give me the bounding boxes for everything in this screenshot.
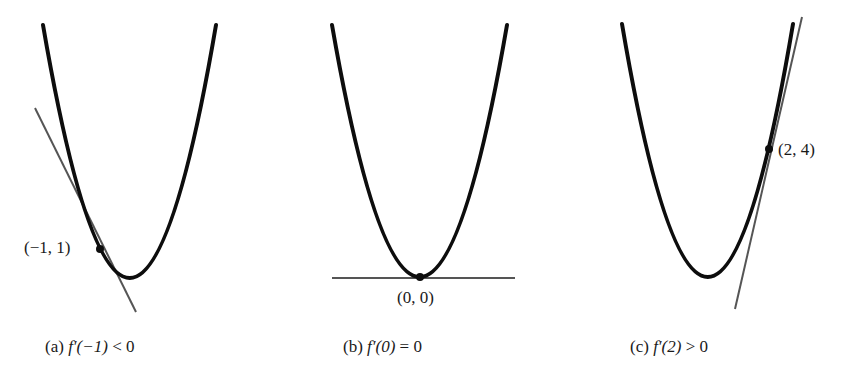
caption-b-func: f′(0) <box>367 337 395 356</box>
caption-b-rel: = 0 <box>400 337 422 356</box>
caption-a-func: f′(−1) <box>68 337 108 356</box>
tangent-line-c <box>735 17 802 309</box>
panel-a <box>35 25 216 312</box>
panel-b <box>332 25 515 281</box>
panel-c <box>622 17 802 309</box>
caption-c-prefix: (c) <box>630 337 649 356</box>
point-label-b: (0, 0) <box>397 288 434 308</box>
parabola-tangent-figure <box>0 0 842 373</box>
caption-c-func: f′(2) <box>653 337 681 356</box>
caption-b: (b) f′(0) = 0 <box>343 337 422 357</box>
tangent-point-a <box>96 245 104 253</box>
caption-c-rel: > 0 <box>686 337 708 356</box>
caption-c: (c) f′(2) > 0 <box>630 337 708 357</box>
tangent-point-b <box>416 273 424 281</box>
caption-a-rel: < 0 <box>112 337 134 356</box>
caption-b-prefix: (b) <box>343 337 363 356</box>
point-label-a: (−1, 1) <box>24 238 70 258</box>
tangent-point-c <box>765 145 773 153</box>
parabola-curve-b <box>332 25 507 277</box>
point-label-c: (2, 4) <box>778 140 815 160</box>
caption-a-prefix: (a) <box>45 337 64 356</box>
caption-a: (a) f′(−1) < 0 <box>45 337 134 357</box>
